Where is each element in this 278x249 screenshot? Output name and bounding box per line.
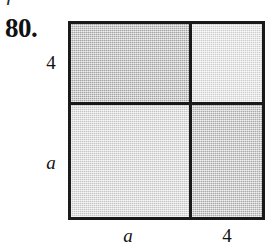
- figure-page: r 80. 4 a a 4: [0, 0, 278, 249]
- divider-vertical: [189, 24, 192, 217]
- clipped-text-above: r: [6, 0, 15, 9]
- square-area-diagram: [68, 21, 265, 220]
- label-left-top: 4: [40, 53, 62, 72]
- quadrant-top-left: [71, 24, 189, 102]
- label-bottom-right: 4: [212, 226, 242, 245]
- exercise-number: 80.: [5, 15, 37, 42]
- quadrant-bottom-left: [71, 105, 189, 217]
- quadrant-top-right: [192, 24, 262, 102]
- divider-horizontal: [71, 102, 262, 105]
- label-bottom-left: a: [113, 226, 143, 245]
- label-left-bottom: a: [40, 153, 62, 172]
- quadrant-bottom-right: [192, 105, 262, 217]
